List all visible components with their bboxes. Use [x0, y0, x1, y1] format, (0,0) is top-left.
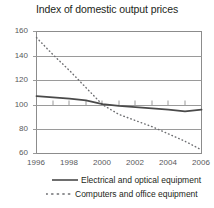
legend-entry-computers-and-office-equipment: Computers and office equipment	[46, 187, 198, 200]
y-axis-ticks	[33, 32, 37, 154]
y-tick-label-60: 60	[6, 148, 28, 157]
x-tick-label-1996: 1996	[23, 158, 49, 167]
y-tick-label-100: 100	[6, 100, 28, 109]
y-tick-label-120: 120	[6, 75, 28, 84]
x-tick-label-2006: 2006	[188, 158, 214, 167]
x-tick-label-2002: 2002	[122, 158, 148, 167]
chart-figure: Index of domestic output prices	[0, 0, 214, 208]
legend-entry-electrical-and-optical-equipment: Electrical and optical equipment	[52, 173, 201, 186]
x-tick-label-2000: 2000	[89, 158, 115, 167]
legend-label-electrical-and-optical-equipment: Electrical and optical equipment	[81, 175, 201, 185]
legend-label-computers-and-office-equipment: Computers and office equipment	[75, 189, 198, 199]
plot-area: 160 140 120 100 80 60 1996 1998 2000 200…	[0, 0, 214, 208]
y-tick-label-140: 140	[6, 51, 28, 60]
y-tick-label-80: 80	[6, 124, 28, 133]
plot-frame	[37, 32, 202, 154]
y-tick-label-160: 160	[6, 26, 28, 35]
legend-dotted-line-icon	[46, 191, 72, 197]
x-tick-label-2004: 2004	[155, 158, 181, 167]
legend-solid-line-icon	[52, 177, 78, 183]
x-tick-label-1998: 1998	[56, 158, 82, 167]
